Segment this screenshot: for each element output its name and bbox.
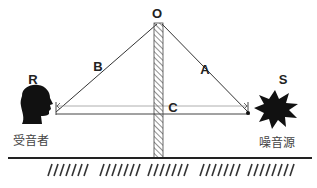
ground-hatch [48,164,294,176]
segment-b-label: B [93,59,102,74]
noise-barrier-diagram: O B A C R S 受音者 噪音源 [0,0,317,188]
point-r-label: R [28,72,38,87]
source-point [246,111,250,115]
noise-source-icon [254,90,298,129]
segment-c-label: C [168,100,178,115]
segment-a-label: A [200,62,210,77]
receiver-head-icon [21,85,53,124]
path-b-line [56,24,157,112]
point-o-label: O [152,6,162,21]
receiver-caption: 受音者 [13,133,49,148]
point-s-label: S [279,72,288,87]
source-caption: 噪音源 [259,135,295,150]
barrier-wall [154,23,163,158]
